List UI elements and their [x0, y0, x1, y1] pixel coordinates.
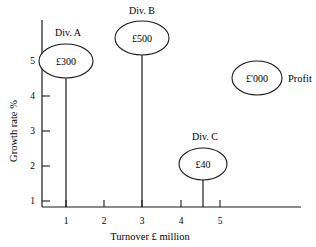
x-tick-label-5: 5 — [218, 216, 223, 226]
series-label-div-a: Div. A — [55, 27, 82, 38]
y-tick-label-4: 4 — [30, 91, 35, 101]
growth-turnover-bubble-chart: 5 4 3 2 1 1 2 3 4 5 Turnover £ million G… — [0, 0, 316, 247]
y-axis-title: Growth rate % — [8, 100, 19, 162]
series-label-div-b: Div. B — [129, 5, 155, 16]
bubble-label-div-c: £40 — [196, 159, 211, 170]
series-label-div-c: Div. C — [192, 131, 218, 142]
y-tick-label-2: 2 — [30, 161, 35, 171]
y-tick-label-1: 1 — [30, 196, 35, 206]
legend-caption: Profit — [288, 73, 312, 84]
data-point-div-a[interactable]: £300 Div. A — [39, 27, 93, 207]
bubble-label-div-a: £300 — [56, 56, 76, 67]
x-axis-ticks: 1 2 3 4 5 — [64, 200, 223, 226]
legend-bubble-label: £'000 — [246, 73, 268, 84]
legend: £'000 Profit — [232, 61, 312, 95]
bubble-label-div-b: £500 — [132, 33, 152, 44]
x-tick-label-4: 4 — [179, 216, 184, 226]
x-tick-label-3: 3 — [140, 216, 145, 226]
data-point-div-b[interactable]: £500 Div. B — [115, 5, 169, 207]
y-tick-label-5: 5 — [30, 56, 35, 66]
y-axis-ticks: 5 4 3 2 1 — [30, 56, 50, 206]
x-tick-label-2: 2 — [102, 216, 107, 226]
x-axis-title: Turnover £ million — [110, 231, 190, 242]
x-tick-label-1: 1 — [64, 216, 69, 226]
chart-canvas: 5 4 3 2 1 1 2 3 4 5 Turnover £ million G… — [0, 0, 316, 247]
y-tick-label-3: 3 — [30, 126, 35, 136]
data-point-div-c[interactable]: £40 Div. C — [179, 131, 227, 207]
